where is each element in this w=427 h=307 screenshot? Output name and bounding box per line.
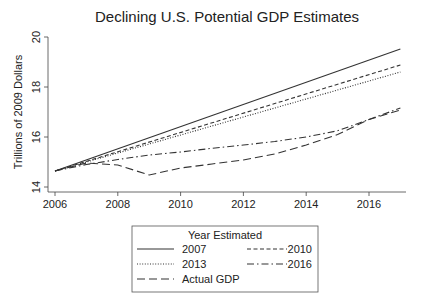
series-line-2016 — [55, 108, 400, 171]
y-tick-label: 18 — [30, 81, 42, 93]
series-line-2007 — [55, 49, 400, 171]
line-chart: Declining U.S. Potential GDP Estimates T… — [0, 0, 427, 307]
y-axis-label: Trillions of 2009 Dollars — [12, 54, 24, 169]
x-tick-label: 2010 — [168, 198, 192, 210]
x-tick-label: 2008 — [106, 198, 130, 210]
chart-container: Declining U.S. Potential GDP Estimates T… — [0, 0, 427, 307]
series-lines — [55, 49, 400, 175]
legend: Year Estimated 2007201020132016Actual GD… — [132, 226, 318, 292]
legend-label: Actual GDP — [182, 273, 239, 285]
series-line-2010 — [55, 65, 400, 171]
x-tick-label: 2016 — [357, 198, 381, 210]
y-tick-label: 14 — [30, 181, 42, 193]
legend-title: Year Estimated — [188, 229, 262, 241]
legend-label: 2010 — [288, 243, 312, 255]
series-line-2013 — [55, 72, 400, 171]
y-tick-label: 16 — [30, 131, 42, 143]
chart-title: Declining U.S. Potential GDP Estimates — [95, 8, 359, 25]
series-line-actual-gdp — [55, 110, 400, 175]
x-tick-label: 2012 — [231, 198, 255, 210]
x-tick-label: 2014 — [294, 198, 318, 210]
x-tick-label: 2006 — [43, 198, 67, 210]
legend-label: 2016 — [288, 258, 312, 270]
legend-label: 2013 — [182, 258, 206, 270]
legend-label: 2007 — [182, 243, 206, 255]
y-tick-label: 20 — [30, 31, 42, 43]
